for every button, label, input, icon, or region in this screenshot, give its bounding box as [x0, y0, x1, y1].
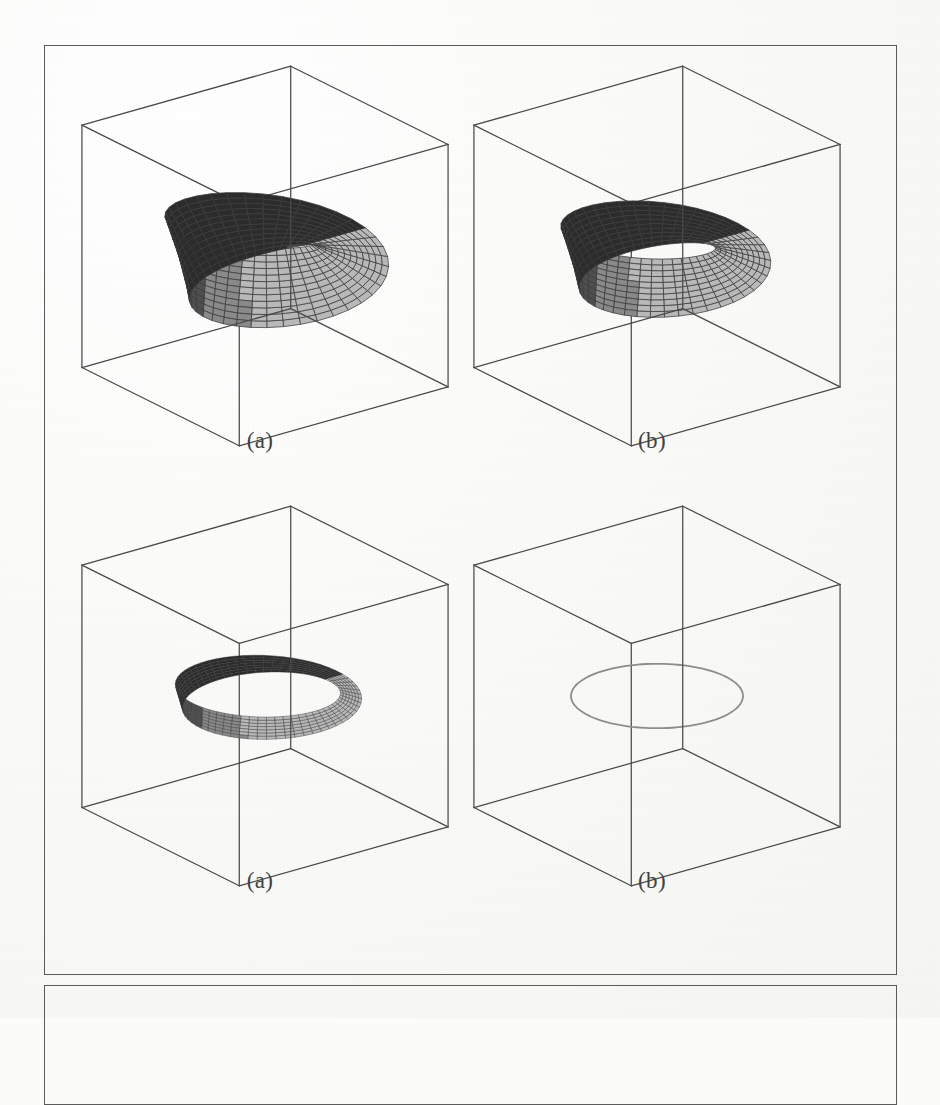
- surface-facet: [277, 255, 288, 262]
- plot-canvas-top-left: [60, 60, 460, 435]
- surface-facet: [651, 271, 663, 277]
- surface-facet: [663, 265, 674, 271]
- surface-facet: [253, 288, 267, 295]
- surface-facet: [634, 206, 649, 211]
- bounding-box-edge: [291, 749, 448, 827]
- surface-facet: [244, 655, 254, 658]
- surface-facet: [651, 228, 663, 233]
- surface-facet: [641, 258, 652, 264]
- surface-facet: [264, 233, 276, 238]
- parametric-surface: [165, 193, 389, 328]
- bounding-box-edge: [291, 309, 448, 387]
- surface-facet: [247, 208, 263, 213]
- surface-facet: [652, 265, 663, 271]
- surface-facet: [275, 716, 284, 720]
- surface-facet: [651, 276, 663, 282]
- surface-facet: [266, 275, 279, 282]
- surface-facet: [254, 663, 263, 666]
- surface-facet: [640, 270, 652, 276]
- parametric-surface: [175, 655, 361, 739]
- surface-facet: [249, 716, 258, 720]
- surface-facet: [637, 311, 651, 318]
- surface-facet: [267, 733, 276, 736]
- surface-facet: [651, 294, 664, 300]
- bounding-box-edge: [82, 749, 291, 808]
- surface-facet: [650, 306, 664, 312]
- surface-facet: [672, 258, 682, 264]
- bounding-box-edge: [683, 506, 840, 584]
- surface-facet: [663, 282, 675, 288]
- surface-facet: [639, 276, 651, 282]
- degenerate-circle-outline: [571, 664, 743, 728]
- surface-facet: [637, 219, 650, 224]
- surface-facet: [649, 201, 665, 207]
- surface-facet: [264, 229, 277, 234]
- bounding-box-edge: [82, 66, 291, 125]
- bounding-box-edge: [474, 749, 683, 808]
- surface-facet: [274, 238, 285, 243]
- second-figure-frame: [44, 985, 897, 1105]
- bounding-box-edge: [82, 125, 239, 203]
- bounding-box-edge: [683, 749, 840, 827]
- surface-facet: [267, 730, 276, 733]
- surface-facet: [636, 215, 650, 220]
- surface-facet: [254, 268, 267, 275]
- surface-facet: [264, 670, 272, 673]
- bounding-box-back-edges: [474, 565, 840, 886]
- surface-facet: [253, 655, 263, 658]
- surface-facet: [652, 259, 663, 265]
- surface-facet: [211, 193, 229, 200]
- surface-facet: [254, 262, 266, 269]
- surface-facet: [633, 201, 649, 206]
- surface-facet: [258, 717, 267, 720]
- surface-facet: [264, 224, 277, 229]
- bounding-box-edge: [474, 125, 631, 203]
- plot-canvas-top-right: [452, 60, 852, 435]
- surface-facet: [228, 198, 246, 204]
- bounding-box-edge: [474, 309, 683, 368]
- surface-facet: [670, 236, 681, 240]
- surface-facet: [663, 270, 674, 276]
- surface-facet: [266, 726, 275, 729]
- surface-facet: [257, 727, 266, 730]
- surface-facet: [258, 720, 267, 723]
- surface-facet: [266, 262, 278, 269]
- surface-facet: [651, 300, 664, 306]
- surface-facet: [278, 261, 290, 268]
- figure-panel-top-left: (a): [60, 60, 460, 480]
- surface-facet: [274, 233, 286, 238]
- surface-facet: [639, 288, 652, 294]
- bounding-box-edge: [683, 309, 840, 387]
- panel-caption-bottom-right: (b): [452, 868, 852, 894]
- surface-facet: [252, 308, 267, 315]
- bounding-box-edge: [82, 309, 291, 368]
- surface-plot-svg: [60, 500, 460, 875]
- surface-facet: [272, 670, 280, 672]
- figure-panel-top-right: (b): [452, 60, 852, 480]
- surface-facet: [273, 656, 283, 659]
- surface-facet: [605, 201, 620, 207]
- surface-facet: [257, 736, 266, 739]
- surface-facet: [663, 287, 676, 293]
- plot-canvas-bottom-right: [452, 500, 852, 875]
- surface-facet: [248, 214, 263, 219]
- surface-plot-svg: [452, 500, 852, 875]
- bounding-box-edge: [631, 584, 840, 643]
- surface-facet: [662, 259, 672, 265]
- surface-facet: [264, 665, 273, 667]
- surface-facet: [266, 255, 277, 262]
- bounding-box-edge: [683, 66, 840, 144]
- surface-facet: [266, 268, 278, 275]
- surface-facet: [267, 288, 281, 295]
- surface-plot-svg: [60, 60, 460, 435]
- surface-facet: [230, 203, 247, 209]
- bounding-box-edge: [239, 584, 448, 643]
- surface-facet: [250, 224, 264, 230]
- bounding-box-edge: [291, 506, 448, 584]
- surface-facet: [227, 193, 246, 198]
- surface-facet: [663, 276, 675, 282]
- surface-facet: [651, 224, 663, 229]
- surface-facet: [264, 667, 273, 669]
- surface-facet: [266, 723, 275, 726]
